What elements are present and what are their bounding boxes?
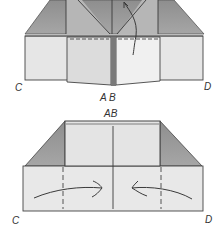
panel-left [67,37,111,85]
top-roof-flap [25,0,204,34]
origami-diagram: C D A B AB C D [0,0,224,234]
center-box [65,121,160,166]
side-flap-right [160,121,202,166]
panel-right [116,37,160,85]
step-top: C D A B [15,0,211,103]
step-bottom: AB C D [12,108,212,226]
label-d-top: D [204,81,211,92]
label-c-bottom: C [12,215,20,226]
label-ab-bottom: AB [103,108,118,119]
label-ab-top: A B [99,92,116,103]
label-d-bottom: D [205,214,212,225]
side-flap-left [25,121,65,166]
label-c-top: C [15,82,23,93]
